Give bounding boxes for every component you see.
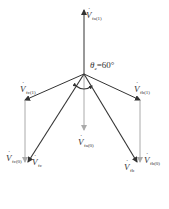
svg-text:fa(1): fa(1) <box>92 16 102 21</box>
label-fa0: · V fa(0) <box>78 132 94 148</box>
label-fa1: · V fa(1) <box>86 5 102 21</box>
phasor-diagram: θe=60° · V fa(1) · V fc(1) · V fb(1) · V… <box>0 0 169 209</box>
svg-text:fc(0): fc(0) <box>12 159 22 164</box>
label-fb: · V fb <box>124 157 135 173</box>
vector-fb <box>84 74 137 162</box>
svg-text:fc: fc <box>38 163 43 168</box>
angle-label: θe=60° <box>90 60 115 71</box>
svg-text:fa(0): fa(0) <box>84 143 94 148</box>
label-fc: · V fc <box>32 152 43 168</box>
svg-text:fb: fb <box>130 168 135 173</box>
label-fb0: · V fb(0) <box>144 150 160 166</box>
label-fc0: · V fc(0) <box>6 148 22 164</box>
svg-text:fc(1): fc(1) <box>26 90 36 95</box>
svg-text:fb(0): fb(0) <box>150 161 160 166</box>
label-fc1: · V fc(1) <box>20 79 36 95</box>
label-fb1: · V fb(1) <box>134 79 150 95</box>
vector-fc <box>28 74 84 162</box>
svg-text:fb(1): fb(1) <box>140 90 150 95</box>
